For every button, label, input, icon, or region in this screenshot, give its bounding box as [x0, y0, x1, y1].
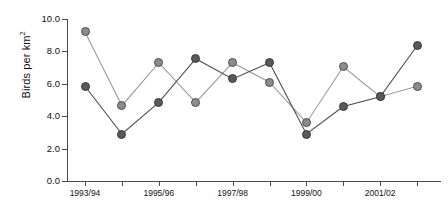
- data-point: [265, 78, 274, 87]
- chart-figure: Birds per km2 0.02.04.06.08.010.0 1993/9…: [0, 0, 448, 223]
- data-point: [302, 118, 311, 127]
- data-point: [339, 102, 348, 111]
- data-point: [81, 27, 90, 36]
- data-point: [117, 130, 126, 139]
- data-point: [81, 82, 90, 91]
- data-point: [302, 130, 311, 139]
- data-point: [376, 92, 385, 101]
- series-line-series-light: [85, 32, 417, 123]
- data-point: [413, 41, 422, 50]
- data-point: [413, 82, 422, 91]
- plot-area: [0, 0, 448, 223]
